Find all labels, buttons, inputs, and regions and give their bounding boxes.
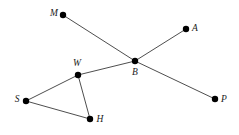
graph-edge-w-h [78, 75, 90, 119]
graph-node-label-s: S [15, 95, 20, 105]
graph-edge-w-s [26, 75, 78, 101]
graph-node-label-p: P [221, 95, 227, 105]
graph-node-label-b: B [132, 68, 138, 78]
graph-edge-b-p [135, 61, 215, 99]
graph-edge-a-b [135, 29, 186, 61]
graph-node-m [60, 12, 66, 18]
graph-node-w [75, 72, 81, 78]
graph-canvas [0, 0, 239, 135]
graph-node-s [23, 98, 29, 104]
graph-node-p [212, 96, 218, 102]
graph-edge-b-w [78, 61, 135, 75]
graph-node-a [183, 26, 189, 32]
graph-node-h [87, 116, 93, 122]
graph-node-label-a: A [192, 24, 198, 34]
graph-edge-s-h [26, 101, 90, 119]
graph-node-label-w: W [73, 59, 81, 69]
graph-node-label-m: M [50, 9, 58, 19]
graph-edge-m-b [63, 15, 135, 61]
graph-node-b [132, 58, 138, 64]
graph-diagram: MAWBSHP [0, 0, 239, 135]
node-layer [23, 12, 218, 122]
graph-node-label-h: H [97, 115, 104, 125]
